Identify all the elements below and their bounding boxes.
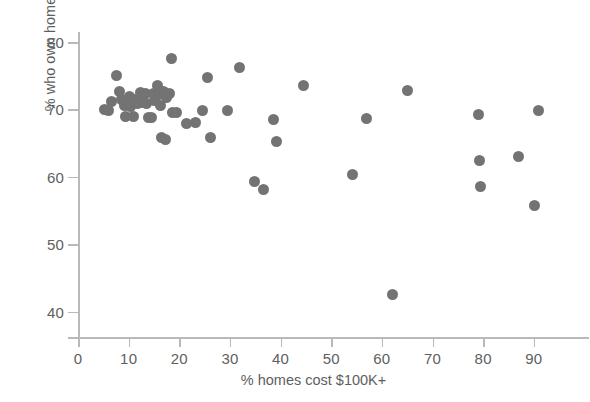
scatter-point: [164, 88, 175, 99]
scatter-point: [166, 53, 177, 64]
scatter-point: [402, 85, 413, 96]
x-tick-label: 40: [261, 350, 301, 367]
y-axis-title: % who own home: [42, 0, 58, 179]
y-tick-label: 50: [0, 236, 64, 253]
x-tick-label: 50: [311, 350, 351, 367]
x-tick-mark: [281, 338, 283, 347]
scatter-point: [128, 111, 139, 122]
scatter-point: [146, 112, 157, 123]
x-tick-mark: [129, 338, 131, 347]
x-tick-mark: [382, 338, 384, 347]
y-tick-mark: [68, 312, 78, 314]
x-axis-title: % homes cost $100K+: [78, 372, 549, 388]
scatter-point: [234, 62, 245, 73]
x-tick-mark: [331, 338, 333, 347]
scatter-point: [361, 113, 372, 124]
x-tick-label: 10: [109, 350, 149, 367]
x-tick-mark: [534, 338, 536, 347]
scatter-point: [347, 169, 358, 180]
y-tick-label: 40: [0, 303, 64, 320]
x-tick-mark: [179, 338, 181, 347]
scatter-point: [271, 136, 282, 147]
scatter-point: [533, 105, 544, 116]
x-tick-mark: [433, 338, 435, 347]
scatter-point: [473, 109, 484, 120]
scatter-point: [513, 151, 524, 162]
x-tick-mark: [483, 338, 485, 347]
y-tick-mark: [68, 177, 78, 179]
scatter-point: [202, 72, 213, 83]
x-tick-label: 70: [413, 350, 453, 367]
scatter-point: [475, 181, 486, 192]
y-tick-mark: [68, 42, 78, 44]
scatter-point: [111, 70, 122, 81]
x-tick-label: 20: [159, 350, 199, 367]
x-tick-label: 0: [58, 350, 98, 367]
x-axis-line: [68, 337, 589, 339]
scatter-point: [529, 200, 540, 211]
scatter-point: [205, 132, 216, 143]
scatter-point: [171, 107, 182, 118]
scatter-point: [474, 155, 485, 166]
x-tick-label: 60: [362, 350, 402, 367]
x-tick-label: 90: [514, 350, 554, 367]
scatter-point: [298, 80, 309, 91]
scatter-point: [160, 134, 171, 145]
scatter-point: [197, 105, 208, 116]
scatter-point: [268, 114, 279, 125]
plot-area: [78, 32, 549, 325]
scatter-point: [222, 105, 233, 116]
x-tick-mark: [230, 338, 232, 347]
scatter-plot-figure: 4050607080 0102030405060708090 % homes c…: [0, 0, 590, 402]
y-tick-mark: [68, 109, 78, 111]
x-tick-label: 80: [463, 350, 503, 367]
y-tick-mark: [68, 244, 78, 246]
scatter-point: [258, 184, 269, 195]
x-tick-label: 30: [210, 350, 250, 367]
scatter-point: [103, 105, 114, 116]
scatter-point: [190, 117, 201, 128]
x-tick-mark: [78, 338, 80, 347]
scatter-point: [387, 289, 398, 300]
